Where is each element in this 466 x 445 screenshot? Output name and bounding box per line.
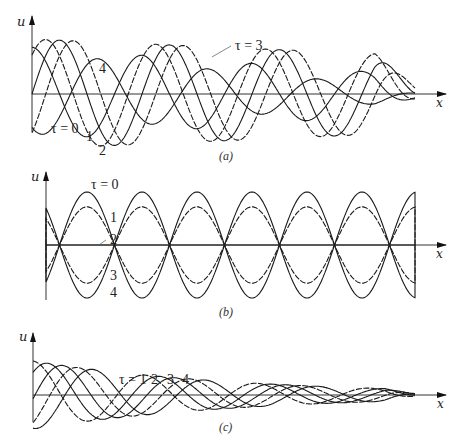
panel-a-caption: (a) [219, 149, 233, 163]
panel-b-caption: (b) [219, 305, 233, 319]
panel-c-label-tau1: τ = 1 [119, 372, 147, 387]
panel-b-y-label: u [31, 169, 39, 184]
panel-a-label-1: 1 [86, 129, 93, 144]
panel-a-y-label: u [17, 14, 25, 29]
panel-a-label-2: 2 [99, 143, 106, 158]
panel-a-label-4: 4 [99, 61, 106, 76]
panel-b-label-tau0: τ = 0 [91, 177, 119, 192]
wave-figure: u x τ = 3 4 τ = 0 1 2 (a) u x τ = 0 1 2 … [0, 0, 466, 445]
panel-c: u x τ = 1 2 3 4 (c) [19, 329, 446, 434]
panel-a-label-tau0: τ = 0 [51, 121, 79, 136]
panel-b-label-1: 1 [110, 210, 117, 225]
leader-line [212, 46, 231, 57]
panel-b-label-2: 2 [110, 232, 117, 247]
panel-b-label-3: 3 [110, 268, 117, 283]
panel-c-label-2: 2 [151, 372, 158, 387]
panel-c-caption: (c) [219, 420, 232, 434]
panel-a: u x τ = 3 4 τ = 0 1 2 (a) [17, 14, 446, 163]
panel-b-x-label: x [436, 247, 443, 261]
panel-c-label-4: 4 [182, 372, 189, 387]
wave-curve-τ=0 [33, 361, 415, 421]
panel-b-curves [46, 192, 415, 298]
panel-a-x-label: x [436, 96, 443, 110]
panel-c-y-label: u [19, 329, 27, 344]
wave-curve-τ=0 [32, 47, 415, 136]
wave-curve-τ=1 [33, 363, 415, 419]
wave-curve-τ=2 [33, 365, 415, 417]
panel-a-label-tau3: τ = 3 [235, 38, 263, 53]
panel-b-label-4: 4 [110, 285, 117, 300]
leader-line [99, 240, 106, 245]
panel-c-x-label: x [437, 397, 444, 411]
panel-c-label-3: 3 [167, 372, 174, 387]
panel-b: u x τ = 0 1 2 3 4 (b) [31, 169, 446, 319]
